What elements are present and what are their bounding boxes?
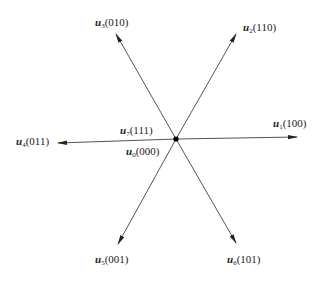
vector-u2-arrow (176, 34, 236, 139)
label-u1: u1(100) (273, 117, 306, 133)
vector-u1-arrow (176, 137, 297, 139)
vector-u4-arrow (58, 139, 176, 143)
label-u5: u5(001) (95, 253, 128, 269)
label-u3: u3(010) (95, 16, 128, 32)
label-u6: u6(101) (227, 253, 260, 269)
label-u7: u7(111) (120, 124, 153, 140)
label-u4: u4(011) (16, 135, 49, 151)
origin-point (173, 136, 178, 141)
label-u2: u2(110) (243, 21, 276, 37)
space-vector-diagram: u1(100) u2(110) u3(010) u4(011) u5(001) … (0, 0, 323, 281)
vector-u6-arrow (176, 139, 236, 243)
label-u0: u0(000) (126, 145, 159, 161)
